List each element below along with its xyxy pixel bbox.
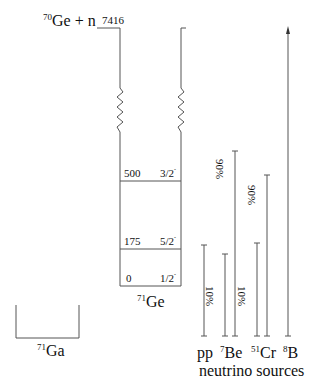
level-spin-0: 1/2- — [160, 273, 176, 284]
source-b8: 8B — [283, 345, 298, 361]
source-pp: pp — [197, 345, 213, 361]
neutrino-sources-caption: neutrino sources — [199, 363, 304, 379]
cr51-10-branch: 10% — [236, 286, 248, 306]
cr51-90-branch: 90% — [246, 185, 258, 205]
level-energy-0: 0 — [126, 273, 132, 284]
right-zigzag — [178, 88, 184, 132]
be7-90-branch: 90% — [214, 159, 226, 179]
left-zigzag — [117, 88, 123, 132]
ge71-label: 71Ge — [137, 294, 165, 310]
b8-arrow-head — [286, 26, 290, 34]
source-cr51: 51Cr — [251, 345, 276, 361]
source-be7: 7Be — [220, 345, 242, 361]
level-energy-175: 175 — [124, 236, 141, 247]
threshold-line — [97, 28, 120, 88]
level-spin-175: 5/2- — [160, 236, 176, 247]
level-energy-500: 500 — [124, 168, 141, 179]
level-spin-500: 3/2- — [160, 168, 176, 179]
reaction-label: 70Ge + n — [43, 13, 96, 29]
level-diagram-lines — [0, 0, 309, 385]
be7-10-branch: 10% — [204, 286, 216, 306]
ga71-label: 71Ga — [37, 343, 65, 359]
ga71-level — [16, 305, 79, 338]
threshold-energy: 7416 — [102, 15, 124, 26]
